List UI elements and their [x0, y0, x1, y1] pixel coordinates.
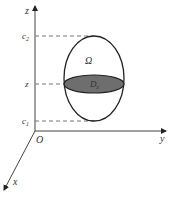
x-axis-label: x — [12, 176, 18, 187]
c1-label: c1 — [22, 116, 29, 127]
y-axis-label: y — [159, 133, 165, 144]
z-level-label: z — [24, 79, 29, 89]
region-label: Ω — [85, 55, 92, 66]
origin-label: O — [36, 134, 43, 145]
z-axis-label: z — [24, 5, 29, 16]
c2-label: c2 — [22, 31, 29, 42]
x-axis — [4, 131, 35, 190]
triple-integral-diagram: z y x O c2 z c1 Ω Dz — [0, 0, 171, 204]
